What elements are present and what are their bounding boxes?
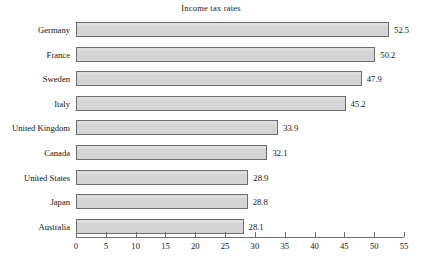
x-axis-tick-label: 15: [161, 241, 170, 251]
bar-value-label: 32.1: [272, 145, 287, 161]
bar: [76, 120, 278, 135]
bar-highlight: [77, 146, 266, 149]
bar: [76, 145, 267, 160]
bar-value-label: 50.2: [380, 47, 395, 63]
category-label: Australia: [0, 219, 70, 235]
bar-row: Italy45.2: [0, 96, 422, 112]
bar-value-label: 45.2: [351, 96, 366, 112]
x-axis-tick: [315, 232, 316, 237]
bar-row: Australia28.1: [0, 219, 422, 235]
bar: [76, 47, 375, 62]
bar-highlight: [77, 23, 388, 26]
bar: [76, 71, 362, 86]
x-axis-tick: [136, 232, 137, 237]
x-axis-tick-label: 40: [310, 241, 319, 251]
bar-highlight: [77, 72, 361, 75]
bar-row: United Kingdom33.9: [0, 120, 422, 136]
bar-value-label: 28.9: [253, 170, 268, 186]
bar-highlight: [77, 195, 247, 198]
bar-value-label: 28.1: [249, 219, 264, 235]
bar-row: France50.2: [0, 47, 422, 63]
category-label: Sweden: [0, 71, 70, 87]
bar-row: Germany52.5: [0, 22, 422, 38]
x-axis-tick: [255, 232, 256, 237]
bar-highlight: [77, 97, 345, 100]
x-axis-tick: [285, 232, 286, 237]
x-axis-tick-label: 0: [74, 241, 78, 251]
category-label: United States: [0, 170, 70, 186]
bar: [76, 219, 244, 234]
category-label: Germany: [0, 22, 70, 38]
x-axis-tick: [76, 232, 77, 237]
x-axis-tick-label: 30: [251, 241, 260, 251]
category-label: Italy: [0, 96, 70, 112]
x-axis-tick: [404, 232, 405, 237]
bar-highlight: [77, 171, 247, 174]
bar: [76, 22, 389, 37]
bar-highlight: [77, 48, 374, 51]
x-axis-tick-label: 55: [400, 241, 409, 251]
x-axis-tick: [225, 232, 226, 237]
x-axis-tick: [195, 232, 196, 237]
x-axis-line: [76, 237, 404, 238]
bar-highlight: [77, 220, 243, 223]
bar: [76, 194, 248, 209]
bar: [76, 96, 346, 111]
x-axis-tick-label: 10: [131, 241, 140, 251]
bar-value-label: 28.8: [253, 194, 268, 210]
bar-value-label: 52.5: [394, 22, 409, 38]
plot-area: Germany52.5France50.2Sweden47.9Italy45.2…: [0, 0, 422, 260]
bar-row: Canada32.1: [0, 145, 422, 161]
x-axis-tick: [106, 232, 107, 237]
bar-value-label: 47.9: [367, 71, 382, 87]
category-label: France: [0, 47, 70, 63]
x-axis-tick: [165, 232, 166, 237]
x-axis-tick-label: 25: [221, 241, 230, 251]
bar-row: United States28.9: [0, 170, 422, 186]
x-axis-tick-label: 45: [340, 241, 349, 251]
bar-highlight: [77, 121, 277, 124]
x-axis-tick: [374, 232, 375, 237]
x-axis-tick-label: 5: [104, 241, 108, 251]
x-axis-tick: [344, 232, 345, 237]
bar-row: Japan28.8: [0, 194, 422, 210]
bar-row: Sweden47.9: [0, 71, 422, 87]
x-axis-tick-label: 35: [280, 241, 289, 251]
category-label: Canada: [0, 145, 70, 161]
category-label: United Kingdom: [0, 120, 70, 136]
x-axis-tick-label: 50: [370, 241, 379, 251]
category-label: Japan: [0, 194, 70, 210]
bar-value-label: 33.9: [283, 120, 298, 136]
bar: [76, 170, 248, 185]
x-axis-tick-label: 20: [191, 241, 200, 251]
income-tax-rates-bar-chart: Income tax rates Germany52.5France50.2Sw…: [0, 0, 422, 260]
